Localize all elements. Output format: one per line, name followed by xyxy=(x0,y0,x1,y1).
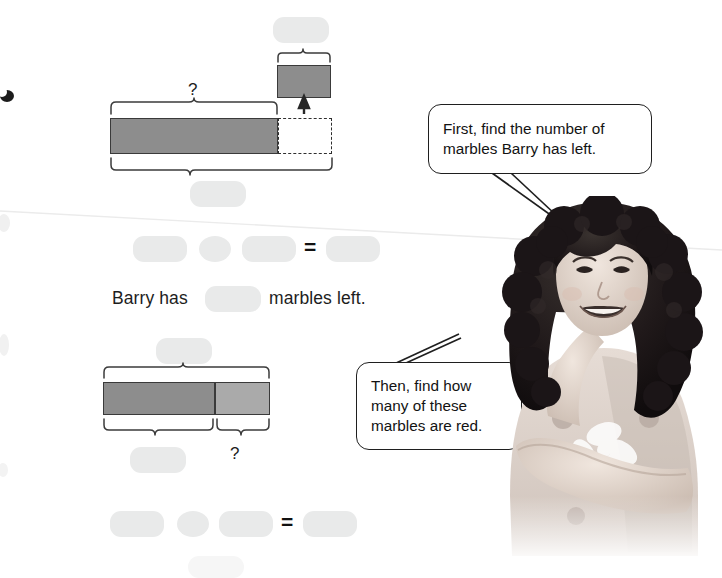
equation-two-result[interactable] xyxy=(303,511,357,537)
equation-one-operand-b[interactable] xyxy=(242,236,296,262)
model-two-right-segment xyxy=(215,382,270,415)
equation-two-trailing-blank[interactable] xyxy=(188,556,244,578)
equation-one-operator[interactable] xyxy=(199,236,231,262)
model-one-dashed-bar xyxy=(278,118,332,154)
equation-two-equals-sign: = xyxy=(281,510,293,534)
model-one-small-bar-blank[interactable] xyxy=(273,17,329,43)
equation-one-equals-sign: = xyxy=(304,235,316,259)
model-two-question-mark: ? xyxy=(230,444,239,464)
equation-two-operand-a[interactable] xyxy=(110,511,164,537)
model-two-top-blank[interactable] xyxy=(156,338,212,364)
bubble-first-line-2: marbles Barry has left. xyxy=(443,140,596,157)
model-two-bottom-blank[interactable] xyxy=(130,447,186,473)
model-one-bottom-blank[interactable] xyxy=(190,181,246,207)
sentence-one-after: marbles left. xyxy=(269,288,366,309)
model-one-long-bar xyxy=(110,118,278,154)
model-one-small-bar xyxy=(277,65,331,98)
bubble-first: First, find the number of marbles Barry … xyxy=(428,104,652,174)
model-two-left-segment xyxy=(103,382,215,415)
model-one-question-mark: ? xyxy=(188,80,197,100)
girl-photo xyxy=(452,196,722,562)
equation-two-operand-b[interactable] xyxy=(219,511,273,537)
sentence-one-blank[interactable] xyxy=(205,286,261,312)
equation-one-result[interactable] xyxy=(326,236,380,262)
equation-two-operator[interactable] xyxy=(177,511,209,537)
bubble-first-line-1: First, find the number of xyxy=(443,120,605,137)
sentence-one-before: Barry has xyxy=(112,288,188,309)
equation-one-operand-a[interactable] xyxy=(133,236,187,262)
